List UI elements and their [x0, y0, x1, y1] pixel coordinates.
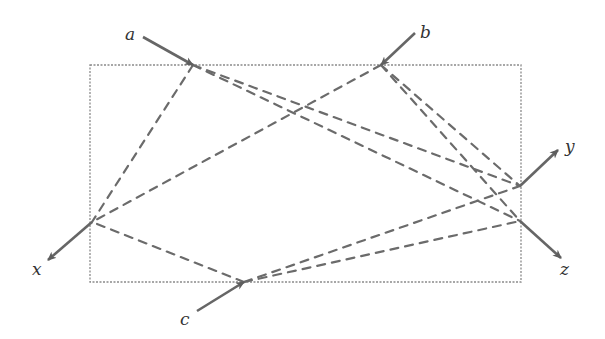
- connection-b-y: [381, 65, 520, 186]
- input-label-b: b: [420, 22, 431, 42]
- connection-a-x: [92, 65, 193, 222]
- connection-c-x: [92, 222, 244, 282]
- connection-c-z: [244, 221, 520, 282]
- output-label-x: x: [32, 259, 42, 279]
- output-arrow-x: [48, 222, 92, 260]
- connection-a-y: [193, 65, 520, 186]
- output-arrow-y: [520, 150, 558, 186]
- input-arrow-c: [197, 282, 244, 311]
- input-arrow-a: [143, 37, 193, 65]
- connection-lines: [92, 65, 520, 282]
- connection-c-y: [244, 186, 520, 282]
- output-arrow-z: [520, 221, 561, 258]
- diagram-canvas: abcxyz: [0, 0, 605, 339]
- connection-b-z: [381, 65, 520, 221]
- output-label-z: z: [559, 259, 570, 279]
- boundary-box: [90, 65, 521, 282]
- input-label-a: a: [125, 24, 135, 44]
- output-label-y: y: [564, 136, 575, 156]
- input-label-c: c: [180, 309, 190, 329]
- input-arrow-b: [381, 33, 415, 65]
- connection-b-x: [92, 65, 381, 222]
